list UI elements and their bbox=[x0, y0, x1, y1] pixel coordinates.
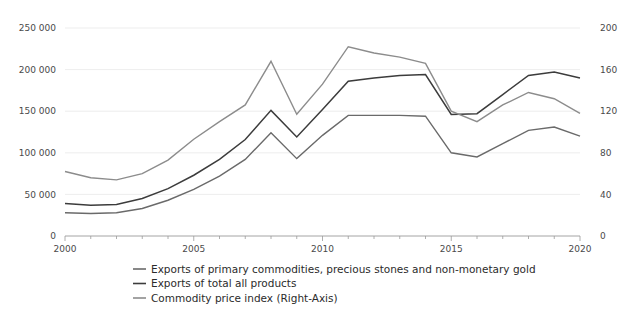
line-chart: 050 000100 000150 000200 000250 000 0408… bbox=[0, 0, 630, 312]
legend-label: Exports of total all products bbox=[151, 277, 296, 289]
chart-legend: Exports of primary commodities, precious… bbox=[133, 263, 536, 304]
chart-container: 050 000100 000150 000200 000250 000 0408… bbox=[0, 0, 630, 312]
right-axis-tick-label: 0 bbox=[600, 231, 606, 241]
right-axis-tick-label: 160 bbox=[600, 65, 617, 75]
left-axis-tick-label: 50 000 bbox=[25, 190, 57, 200]
gridlines bbox=[65, 28, 580, 194]
x-axis-tick-label: 2000 bbox=[54, 244, 77, 254]
legend-label: Exports of primary commodities, precious… bbox=[151, 263, 536, 275]
series-line bbox=[65, 72, 580, 205]
right-axis-tick-label: 80 bbox=[600, 148, 612, 158]
left-axis-tick-label: 0 bbox=[50, 231, 56, 241]
right-axis-tick-label: 120 bbox=[600, 106, 617, 116]
left-axis-tick-labels: 050 000100 000150 000200 000250 000 bbox=[19, 23, 56, 241]
x-axis-tick-label: 2010 bbox=[311, 244, 334, 254]
left-axis-tick-label: 250 000 bbox=[19, 23, 56, 33]
legend-label: Commodity price index (Right-Axis) bbox=[151, 292, 338, 304]
x-axis-tick-labels: 20002005201020152020 bbox=[54, 244, 592, 254]
left-axis-tick-label: 200 000 bbox=[19, 65, 56, 75]
right-axis-tick-labels: 04080120160200 bbox=[600, 23, 617, 241]
left-axis-tick-label: 100 000 bbox=[19, 148, 56, 158]
left-axis-tick-label: 150 000 bbox=[19, 106, 56, 116]
x-axis-tick-label: 2015 bbox=[440, 244, 463, 254]
tick-marks bbox=[65, 236, 580, 241]
x-axis-tick-label: 2005 bbox=[182, 244, 205, 254]
right-axis-tick-label: 200 bbox=[600, 23, 617, 33]
x-axis-tick-label: 2020 bbox=[569, 244, 592, 254]
series-line bbox=[65, 47, 580, 180]
right-axis-tick-label: 40 bbox=[600, 190, 612, 200]
data-series-group bbox=[65, 47, 580, 214]
